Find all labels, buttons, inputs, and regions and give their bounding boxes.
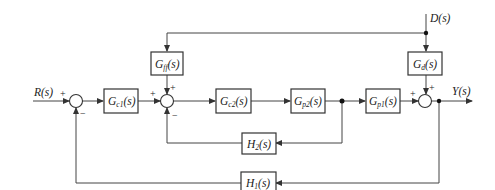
summing-junction-3: + + [410,82,435,108]
input-signal-label: R(s) [33,86,53,99]
signal-wires [33,14,472,183]
branch-point-output [437,99,441,103]
svg-text:+: + [150,88,156,99]
disturbance-signal-label: D(s) [429,12,451,25]
block-gc1: Gc1(s) [104,89,138,113]
svg-text:+: + [410,88,416,99]
block-gc2: Gc2(s) [216,89,251,113]
summing-junction-1: + − [60,88,86,119]
output-signal-label: Y(s) [452,85,471,98]
block-gp1: Gp1(s) [366,89,400,113]
svg-text:H2(s): H2(s) [246,138,271,152]
svg-text:+: + [60,88,66,99]
block-diagram: + − + + − + + R(s) D(s) Y(s) Gc1(s) Gff(… [0,0,495,190]
block-gd: Gd(s) [408,52,442,75]
block-gp2: Gp2(s) [291,89,325,113]
svg-text:+: + [170,82,176,93]
svg-text:H1(s): H1(s) [245,177,270,190]
svg-text:−: − [172,110,178,121]
branch-point-inner [340,99,345,104]
svg-text:+: + [429,82,435,93]
svg-text:Gff(s): Gff(s) [155,58,180,72]
block-gff: Gff(s) [151,52,183,75]
block-h1: H1(s) [241,172,276,190]
svg-text:Gd(s): Gd(s) [413,58,437,72]
block-h2: H2(s) [242,133,276,154]
svg-text:−: − [80,108,86,119]
branch-point-disturbance [424,31,428,35]
